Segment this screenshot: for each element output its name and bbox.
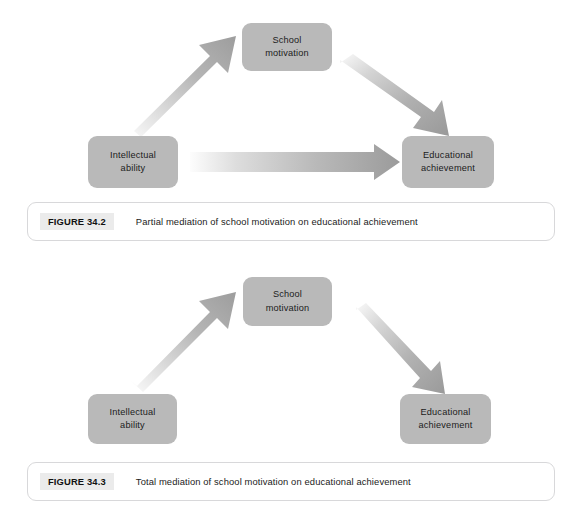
- diagram-partial-mediation: School motivation Intellectual ability E…: [0, 0, 580, 200]
- figure-caption-text: Partial mediation of school motivation o…: [136, 216, 418, 227]
- node-school-motivation[interactable]: School motivation: [242, 23, 332, 71]
- node-educational-achievement[interactable]: Educational achievement: [402, 136, 494, 188]
- arrow-ability-to-achievement: [190, 144, 400, 180]
- arrow-motivation-to-achievement: [340, 54, 449, 136]
- node-school-motivation[interactable]: School motivation: [243, 277, 332, 326]
- arrow-ability-to-motivation: [130, 292, 236, 392]
- node-intellectual-ability[interactable]: Intellectual ability: [88, 394, 177, 444]
- arrow-motivation-to-achievement: [356, 303, 445, 394]
- diagram-total-mediation: School motivation Intellectual ability E…: [0, 260, 580, 460]
- figure-34-3-block: School motivation Intellectual ability E…: [0, 260, 580, 527]
- arrow-ability-to-motivation: [127, 36, 236, 137]
- node-label: School motivation: [265, 34, 309, 61]
- node-educational-achievement[interactable]: Educational achievement: [400, 394, 491, 444]
- figure-caption-34-2: FIGURE 34.2 Partial mediation of school …: [27, 202, 555, 241]
- node-label: Educational achievement: [421, 149, 475, 176]
- figure-number-badge: FIGURE 34.2: [40, 213, 114, 230]
- node-label: Intellectual ability: [110, 149, 156, 176]
- figure-number-badge: FIGURE 34.3: [40, 473, 114, 490]
- node-label: School motivation: [266, 288, 310, 315]
- figure-34-2-block: School motivation Intellectual ability E…: [0, 0, 580, 264]
- node-label: Educational achievement: [418, 406, 472, 433]
- figure-caption-text: Total mediation of school motivation on …: [136, 476, 411, 487]
- figure-caption-34-3: FIGURE 34.3 Total mediation of school mo…: [27, 462, 555, 501]
- node-intellectual-ability[interactable]: Intellectual ability: [88, 136, 178, 188]
- node-label: Intellectual ability: [109, 406, 155, 433]
